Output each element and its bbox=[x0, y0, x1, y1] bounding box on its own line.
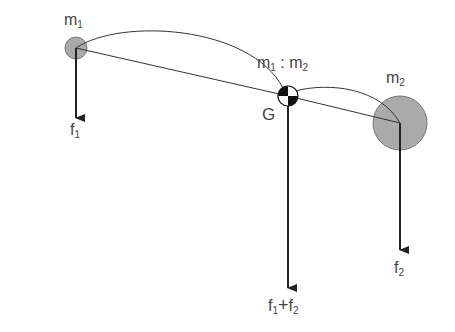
label-m1: m1 bbox=[64, 12, 83, 30]
label-ratio: m1 : m2 bbox=[257, 55, 308, 73]
label-f2: f2 bbox=[394, 260, 404, 278]
label-f1: f1 bbox=[70, 122, 80, 140]
label-g: G bbox=[262, 106, 275, 123]
cg-diagram bbox=[0, 0, 455, 332]
label-m2: m2 bbox=[386, 70, 405, 88]
label-f1-plus-f2: f1+f2 bbox=[268, 296, 299, 316]
center-of-gravity-icon bbox=[278, 86, 298, 106]
arc-m1-g bbox=[76, 31, 283, 88]
